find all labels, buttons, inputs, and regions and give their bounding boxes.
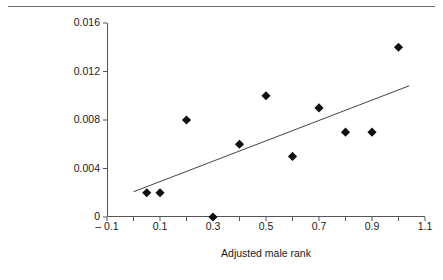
y-tick-label: 0.016: [74, 17, 100, 28]
data-point: [288, 152, 297, 161]
figure: 00.0040.0080.0120.016 – 0.10.10.30.50.70…: [0, 0, 443, 280]
y-tick-label: 0.004: [74, 163, 100, 174]
trendline-group: [134, 86, 410, 192]
data-point: [341, 128, 350, 137]
data-point: [142, 188, 151, 197]
x-tick-label: 0.5: [241, 221, 291, 232]
x-tick-label: – 0.1: [82, 221, 132, 232]
data-point: [155, 188, 164, 197]
axis-ticks-group: [103, 23, 425, 221]
data-point: [367, 128, 376, 137]
y-tick-label: 0.012: [74, 66, 100, 77]
x-tick-label: 0.1: [135, 221, 185, 232]
data-point: [182, 115, 191, 124]
x-tick-label: 0.7: [294, 221, 344, 232]
x-tick-label: 0.9: [347, 221, 397, 232]
y-tick-label: 0.008: [74, 114, 100, 125]
x-axis-title: Adjusted male rank: [107, 247, 425, 259]
data-point: [261, 91, 270, 100]
x-axis-tick-labels: – 0.10.10.30.50.70.91.1: [0, 221, 443, 235]
data-point: [235, 140, 244, 149]
y-axis-tick-labels: 00.0040.0080.0120.016: [42, 0, 100, 280]
x-tick-label: 1.1: [400, 221, 443, 232]
trendline: [134, 86, 410, 192]
x-tick-label: 0.3: [188, 221, 238, 232]
data-point: [394, 43, 403, 52]
data-points-group: [142, 43, 403, 222]
data-point: [314, 103, 323, 112]
